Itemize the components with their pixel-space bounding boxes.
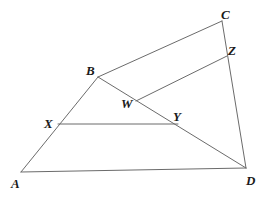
segment-WZ: [136, 56, 227, 101]
vertex-label-B: B: [86, 64, 95, 77]
vertex-label-A: A: [11, 177, 20, 190]
vertex-label-D: D: [246, 174, 255, 187]
geometry-figure: C Z B W X Y A D: [0, 0, 266, 198]
segment-BC: [98, 21, 222, 77]
vertex-label-Z: Z: [228, 44, 236, 57]
vertex-label-W: W: [121, 97, 133, 110]
segment-AD: [21, 168, 246, 172]
vertex-label-X: X: [44, 117, 53, 130]
vertex-label-C: C: [221, 8, 230, 21]
figure-canvas: [0, 0, 266, 198]
segment-BD: [98, 77, 246, 168]
vertex-label-Y: Y: [173, 110, 181, 123]
